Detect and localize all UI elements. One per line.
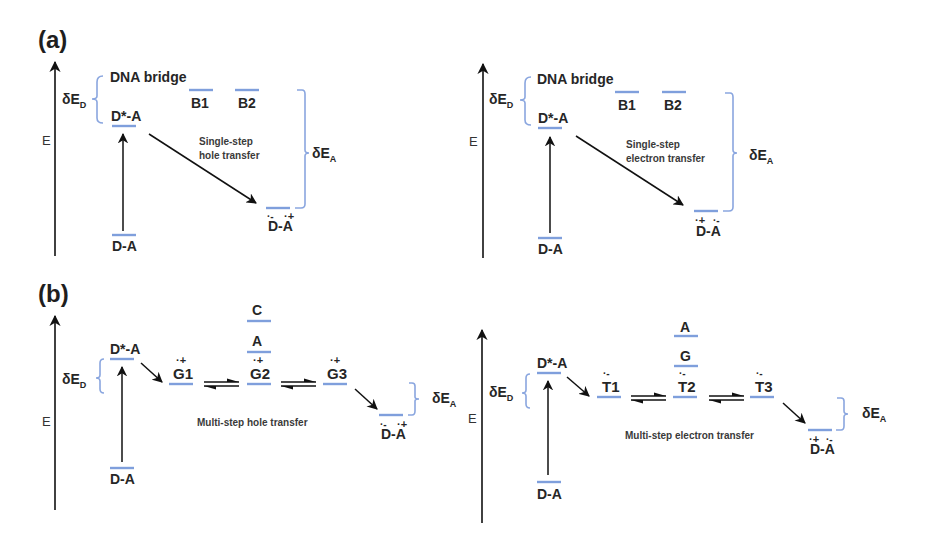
- delta-ea-label: δEA: [312, 145, 337, 164]
- acceptor-charge: ·+: [397, 418, 407, 430]
- injection-arrow: [141, 363, 162, 382]
- site-2-label: G2: [250, 365, 270, 382]
- equilibrium-arrow-2-3: [281, 382, 316, 386]
- delta-ea-label: δEA: [862, 405, 887, 424]
- equilibrium-arrow-1-2: [204, 382, 239, 386]
- dna-bridge-label: DNA bridge: [537, 71, 614, 87]
- delta-ea-bracket: [836, 398, 848, 430]
- acceptor-charge: ·-: [826, 434, 833, 445]
- panel-b-label: (b): [38, 280, 69, 307]
- excited-state-label: D*-A: [537, 355, 567, 371]
- site-1-label: T1: [602, 378, 620, 395]
- ground-state-label: D-A: [538, 241, 563, 257]
- dna-bridge-label: DNA bridge: [110, 69, 187, 85]
- process-label: Multi-step electron transfer: [625, 430, 754, 441]
- delta-ed-label: δED: [62, 371, 87, 390]
- energy-axis-label: E: [468, 411, 477, 426]
- bridge-b2-label: B2: [664, 97, 682, 113]
- panel-a-hole-transfer: (a) E δED DNA bridge D*-A B1 B2 D-A Sing…: [38, 26, 337, 256]
- bridge-b2-label: B2: [238, 95, 256, 111]
- delta-ed-label: δED: [489, 384, 514, 403]
- injection-arrow: [567, 377, 589, 396]
- process-label-line2: electron transfer: [626, 153, 705, 164]
- delta-ea-label: δEA: [749, 147, 774, 166]
- equilibrium-arrow-1-2: [631, 396, 666, 400]
- delta-ed-label: δED: [62, 91, 87, 110]
- donor-charge: ·-: [267, 211, 274, 222]
- bridge-b1-label: B1: [191, 95, 209, 111]
- upper-level-1-label: C: [252, 302, 262, 318]
- site-3-label: T3: [755, 378, 773, 395]
- panel-b-hole-transfer: (b) E δED D*-A D-A G1 ·+ G2 ·+ G3 ·+ C A: [38, 280, 457, 510]
- process-label-line2: hole transfer: [199, 150, 260, 161]
- donor-charge: ·+: [809, 433, 819, 445]
- delta-ed-bracket: [92, 76, 103, 123]
- site-2-label: T2: [678, 378, 696, 395]
- donor-charge: ·+: [695, 214, 705, 226]
- delta-ea-bracket: [295, 90, 309, 208]
- process-label-line1: Single-step: [199, 136, 253, 147]
- delta-ed-label: δED: [489, 91, 514, 110]
- site-1-charge: ·-: [603, 368, 610, 379]
- delta-ed-bracket: [96, 359, 104, 393]
- delta-ea-bracket: [723, 93, 737, 211]
- site-1-charge: ·+: [176, 354, 186, 366]
- energy-diagram-figure: (a) E δED DNA bridge D*-A B1 B2 D-A Sing…: [0, 0, 925, 544]
- ground-state-label: D-A: [112, 238, 137, 254]
- delta-ed-bracket: [520, 77, 531, 125]
- upper-level-1-label: A: [680, 319, 690, 335]
- donor-charge: ·-: [380, 419, 387, 430]
- ground-state-label: D-A: [537, 486, 562, 502]
- bridge-b1-label: B1: [618, 97, 636, 113]
- excited-state-label: D*-A: [110, 341, 140, 357]
- acceptor-charge: ·+: [284, 210, 294, 222]
- trapping-arrow: [355, 389, 377, 409]
- energy-axis-label: E: [42, 133, 51, 148]
- energy-axis-label: E: [469, 134, 478, 149]
- upper-level-2-label: G: [680, 348, 691, 364]
- delta-ea-bracket: [408, 383, 419, 415]
- panel-a-electron-transfer: E δED DNA bridge D*-A B1 B2 D-A Single-s…: [469, 64, 774, 258]
- delta-ed-bracket: [522, 374, 530, 408]
- acceptor-charge: ·-: [713, 215, 720, 226]
- site-1-label: G1: [173, 365, 193, 382]
- panel-b-electron-transfer: E δED D*-A D-A T1 ·- T2 ·- T3 ·- A G: [468, 319, 887, 523]
- panel-a-label: (a): [38, 26, 67, 53]
- trapping-arrow: [783, 403, 805, 423]
- upper-level-2-label: A: [252, 333, 262, 349]
- delta-ea-label: δEA: [432, 390, 457, 409]
- site-2-charge: ·-: [679, 368, 686, 379]
- excited-state-label: D*-A: [111, 108, 141, 124]
- site-3-label: G3: [327, 365, 347, 382]
- process-label: Multi-step hole transfer: [197, 417, 308, 428]
- site-3-charge: ·+: [330, 354, 340, 366]
- site-3-charge: ·-: [756, 368, 763, 379]
- process-label-line1: Single-step: [626, 139, 680, 150]
- ground-state-label: D-A: [110, 471, 135, 487]
- site-2-charge: ·+: [253, 354, 263, 366]
- equilibrium-arrow-2-3: [709, 396, 744, 400]
- energy-axis-label: E: [42, 414, 51, 429]
- excited-state-label: D*-A: [538, 110, 568, 126]
